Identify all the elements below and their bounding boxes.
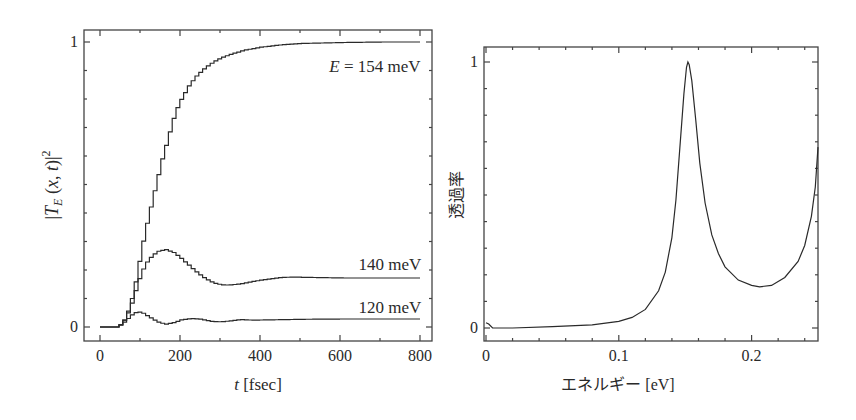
svg-text:透過率: 透過率 <box>448 171 465 219</box>
x-tick-label: 800 <box>408 347 432 364</box>
right-y-axis-label: 透過率 <box>448 171 465 219</box>
x-tick-label: 400 <box>248 347 272 364</box>
x-tick-label: 0.1 <box>609 347 629 364</box>
y-tick-label: 1 <box>470 53 478 70</box>
right-plot-frame <box>484 47 818 341</box>
right-axis-ticks <box>484 47 818 341</box>
right-x-axis-label: エネルギー [eV] <box>561 376 674 393</box>
y-tick-label: 0 <box>70 318 78 335</box>
y-tick-label: 0 <box>470 319 478 336</box>
series-label-140: 140 meV <box>359 255 423 274</box>
left-axis-ticks <box>84 30 432 341</box>
y-tick-label: 1 <box>70 33 78 50</box>
left-x-axis-label: t [fsec] <box>234 375 282 394</box>
curve-transmission <box>486 62 818 328</box>
figure: 0200400600800 01 E = 154 meV 140 meV 120… <box>0 0 856 420</box>
right-x-tick-labels: 00.10.2 <box>482 347 762 364</box>
figure-svg: 0200400600800 01 E = 154 meV 140 meV 120… <box>0 0 856 420</box>
left-y-tick-labels: 01 <box>70 33 78 335</box>
left-y-axis-label: |TE (x, t)|2 <box>39 150 65 219</box>
right-y-tick-labels: 01 <box>470 53 478 336</box>
x-tick-label: 600 <box>328 347 352 364</box>
series-label-120: 120 meV <box>359 298 423 317</box>
left-plot-frame <box>84 30 432 341</box>
svg-text:|TE (x, t)|2: |TE (x, t)|2 <box>39 150 65 219</box>
x-tick-label: 0 <box>482 347 490 364</box>
curve-e-154-mev <box>100 42 420 327</box>
left-curves <box>100 42 420 327</box>
right-curves <box>486 62 818 328</box>
left-chart-time-transmission: 0200400600800 01 E = 154 meV 140 meV 120… <box>39 30 432 394</box>
series-label-154: E = 154 meV <box>328 57 421 76</box>
x-tick-label: 0.2 <box>742 347 762 364</box>
x-tick-label: 200 <box>168 347 192 364</box>
x-tick-label: 0 <box>96 347 104 364</box>
right-chart-energy-transmission: 00.10.2 01 エネルギー [eV] 透過率 <box>448 47 818 393</box>
left-x-tick-labels: 0200400600800 <box>96 347 432 364</box>
